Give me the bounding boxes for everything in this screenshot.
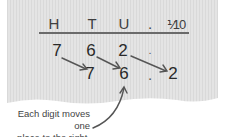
caption-line-1: Each digit moves one — [4, 108, 90, 132]
caption: Each digit moves one place to the right. — [4, 108, 90, 137]
arrow-units-to-tenths-icon — [131, 56, 167, 72]
arrow-hundreds-to-tens-icon — [62, 58, 87, 70]
arrow-tens-to-units-icon — [97, 57, 120, 69]
curved-pointer-arrow-icon — [93, 87, 127, 128]
caption-line-2: place to the right. — [4, 132, 90, 137]
